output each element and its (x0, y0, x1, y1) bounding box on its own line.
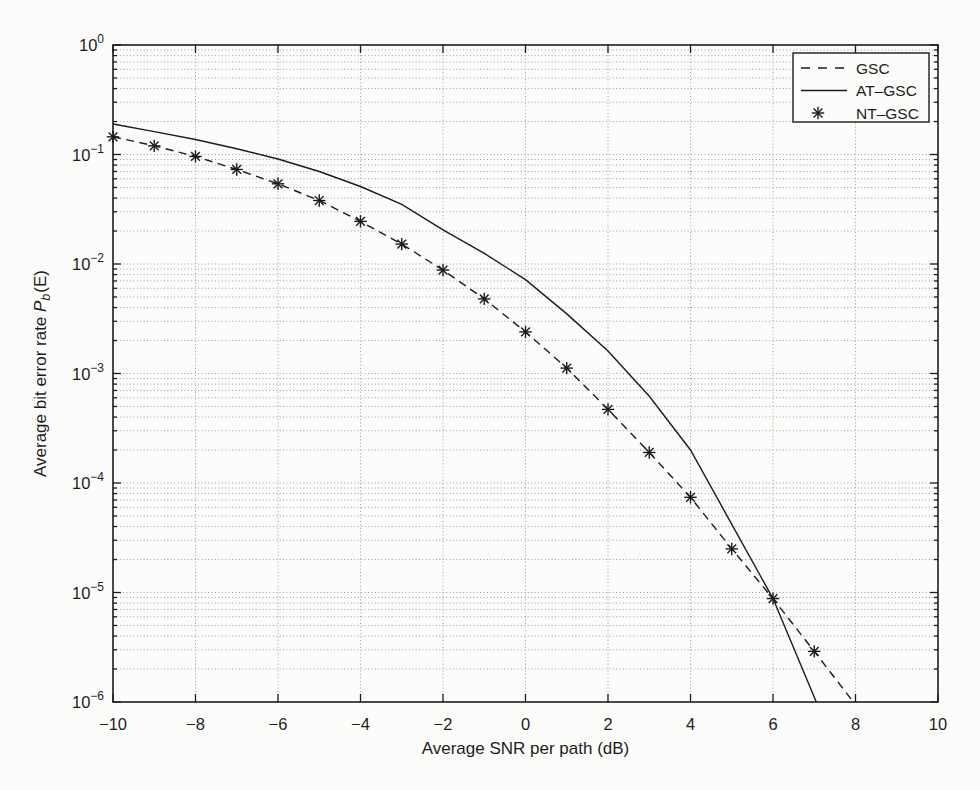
svg-text:8: 8 (851, 715, 860, 733)
svg-text:2: 2 (603, 715, 612, 733)
ber-chart-svg: −10−8−6−4−2024681010010−110−210−310−410−… (0, 0, 980, 790)
x-axis-label: Average SNR per path (dB) (422, 739, 630, 758)
y-tick-labels: 10010−110−210−310−410−510−6 (72, 32, 104, 711)
svg-text:10−4: 10−4 (72, 470, 104, 492)
svg-text:100: 100 (79, 32, 104, 54)
svg-text:0: 0 (521, 715, 530, 733)
svg-text:10−3: 10−3 (72, 361, 104, 383)
svg-text:−8: −8 (186, 715, 205, 733)
svg-text:10−2: 10−2 (72, 251, 104, 273)
svg-text:10−1: 10−1 (72, 142, 104, 164)
series-at-gsc-line (113, 124, 816, 702)
svg-text:−4: −4 (351, 715, 370, 733)
svg-text:−2: −2 (434, 715, 453, 733)
grid-lines (113, 45, 938, 702)
svg-text:6: 6 (768, 715, 777, 733)
legend-label: GSC (856, 60, 890, 77)
svg-text:10: 10 (929, 715, 947, 733)
asterisk-marker-icon (812, 107, 824, 119)
ber-chart: −10−8−6−4−2024681010010−110−210−310−410−… (0, 0, 980, 790)
svg-text:−10: −10 (99, 715, 127, 733)
legend-label: NT–GSC (856, 105, 919, 122)
figure-canvas: −10−8−6−4−2024681010010−110−210−310−410−… (0, 0, 980, 790)
svg-text:4: 4 (686, 715, 695, 733)
legend-label: AT–GSC (856, 82, 917, 99)
x-tick-labels: −10−8−6−4−20246810 (99, 715, 947, 733)
y-axis-label: Average bit error rate Pb(E) (31, 270, 53, 477)
series-nt-gsc-markers (107, 131, 821, 658)
legend: GSCAT–GSCNT–GSC (793, 53, 929, 122)
svg-text:−6: −6 (269, 715, 288, 733)
svg-text:10−6: 10−6 (72, 689, 104, 711)
svg-text:10−5: 10−5 (72, 580, 104, 602)
